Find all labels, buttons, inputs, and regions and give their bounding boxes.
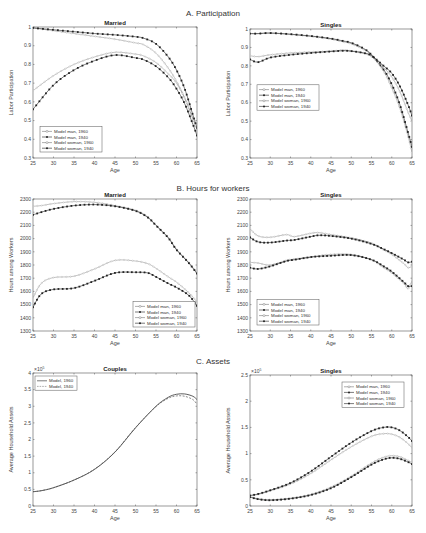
y-tick-label: 1	[245, 26, 248, 32]
x-tick-label: 30	[267, 160, 273, 166]
legend-label: Model woman, 1960	[54, 140, 94, 145]
y-tick-label: 1800	[20, 262, 31, 268]
x-tick-label: 60	[174, 508, 180, 514]
y-axis-label: Hours among Workers	[225, 237, 231, 292]
y-tick-label: 1.5	[241, 424, 248, 430]
panel-title: Singles	[320, 192, 342, 198]
x-tick-label: 40	[92, 160, 98, 166]
legend-label: Model man, 1940	[271, 308, 305, 313]
x-tick-label: 55	[153, 333, 159, 339]
y-tick-label: 2300	[20, 196, 31, 202]
y-tick-label: 0.5	[241, 477, 248, 483]
legend: Model man, 1960Model man, 1940Model woma…	[257, 85, 319, 110]
x-axis-label: Age	[110, 340, 120, 346]
legend-label: Model woman, 1940	[271, 104, 311, 109]
y-tick-label: 1	[28, 469, 31, 475]
x-axis-label: Age	[110, 167, 120, 173]
y-tick-label: 0.5	[241, 118, 248, 124]
section-heading: C. Assets	[196, 357, 230, 366]
legend-label: Model woman, 1940	[54, 146, 94, 151]
x-tick-label: 60	[389, 333, 395, 339]
y-tick-label: 1300	[237, 328, 248, 334]
x-tick-label: 65	[194, 160, 200, 166]
y-tick-label: 4	[28, 370, 31, 376]
x-axis-label: Age	[110, 515, 120, 521]
x-tick-label: 60	[174, 333, 180, 339]
y-tick-label: 3.5	[24, 386, 31, 392]
x-tick-label: 45	[112, 508, 118, 514]
x-tick-label: 40	[308, 333, 314, 339]
panel-title: Singles	[320, 22, 342, 28]
legend-label: Model man, 1940	[54, 135, 88, 140]
chart-b-singles: Singles253035404550556065130014001500160…	[225, 192, 415, 346]
x-tick-label: 30	[267, 508, 273, 514]
x-tick-label: 25	[247, 508, 253, 514]
y-tick-label: 0.4	[241, 136, 248, 142]
legend-label: Model woman, 1960	[271, 98, 311, 103]
chart-a-married: Married2530354045505560650.30.40.50.60.7…	[8, 20, 200, 173]
legend-label: Model man, 1940	[356, 390, 390, 395]
x-tick-label: 60	[389, 160, 395, 166]
figure-canvas: A. ParticipationB. Hours for workersC. A…	[0, 0, 426, 533]
chart-b-married: Married253035404550556065130014001500160…	[8, 192, 200, 346]
y-tick-label: 0.6	[241, 99, 248, 105]
legend-label: Model man, 1960	[271, 87, 305, 92]
legend-label: Model woman, 1940	[147, 321, 187, 326]
legend: Model, 1960Model, 1940	[35, 376, 77, 390]
legend-label: Model woman, 1960	[147, 315, 187, 320]
legend: Model man, 1960Model man, 1940Model woma…	[40, 127, 102, 152]
y-tick-label: 0.7	[24, 80, 31, 86]
legend-label: Model, 1960	[49, 378, 74, 383]
x-tick-label: 30	[51, 333, 57, 339]
y-tick-label: 2.5	[241, 372, 248, 378]
y-tick-label: 0	[245, 503, 248, 509]
section-heading: B. Hours for workers	[177, 184, 250, 193]
x-tick-label: 30	[267, 333, 273, 339]
x-tick-label: 65	[409, 160, 415, 166]
chart-c-singles: Singles25303540455055606500.511.522.5×10…	[225, 368, 415, 521]
x-axis-label: Age	[326, 167, 336, 173]
legend: Model man, 1960Model man, 1940Model woma…	[257, 300, 319, 325]
x-tick-label: 50	[133, 160, 139, 166]
section-heading: A. Participation	[186, 9, 240, 18]
y-tick-label: 3	[28, 403, 31, 409]
x-tick-label: 35	[288, 508, 294, 514]
x-tick-label: 60	[174, 160, 180, 166]
y-tick-label: 1600	[20, 288, 31, 294]
x-tick-label: 65	[409, 508, 415, 514]
x-tick-label: 30	[51, 508, 57, 514]
legend-label: Model man, 1960	[356, 384, 390, 389]
y-axis-label: Average Household Assets	[225, 407, 231, 473]
x-tick-label: 50	[348, 160, 354, 166]
legend-label: Model man, 1940	[271, 93, 305, 98]
x-tick-label: 55	[369, 160, 375, 166]
y-tick-label: 0.7	[241, 81, 248, 87]
y-tick-label: 1400	[20, 315, 31, 321]
y-tick-label: 2100	[20, 222, 31, 228]
y-tick-label: 1700	[20, 275, 31, 281]
x-tick-label: 55	[153, 160, 159, 166]
legend-label: Model woman, 1940	[271, 319, 311, 324]
y-multiplier: ×105	[251, 368, 261, 374]
x-tick-label: 40	[308, 160, 314, 166]
x-tick-label: 60	[389, 508, 395, 514]
y-tick-label: 2	[28, 436, 31, 442]
y-tick-label: 2100	[237, 222, 248, 228]
x-tick-label: 45	[112, 160, 118, 166]
x-tick-label: 35	[288, 333, 294, 339]
x-tick-label: 45	[112, 333, 118, 339]
x-tick-label: 50	[348, 333, 354, 339]
x-tick-label: 50	[133, 508, 139, 514]
x-tick-label: 50	[133, 333, 139, 339]
y-tick-label: 0.6	[24, 99, 31, 105]
y-tick-label: 0.8	[241, 63, 248, 69]
y-tick-label: 1700	[237, 275, 248, 281]
x-tick-label: 45	[328, 160, 334, 166]
x-tick-label: 55	[369, 508, 375, 514]
panel-title: Couples	[103, 366, 127, 372]
y-tick-label: 1400	[237, 315, 248, 321]
y-tick-label: 2	[245, 398, 248, 404]
y-axis-label: Labor Participation	[225, 71, 231, 117]
y-tick-label: 1300	[20, 328, 31, 334]
x-axis-label: Age	[326, 515, 336, 521]
